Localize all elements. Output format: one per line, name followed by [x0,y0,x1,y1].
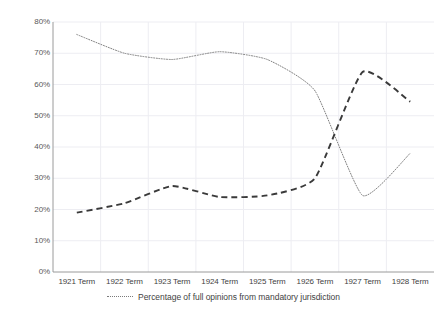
legend-label: Percentage of full opinions from mandato… [138,292,340,302]
y-axis-tick-label: 30% [24,174,50,182]
line-chart: 0%10%20%30%40%50%60%70%80% 1921 Term1922… [0,0,447,310]
x-axis-tick-label: 1928 Term [380,277,440,286]
y-axis-tick-label: 70% [24,49,50,57]
legend-item[interactable]: Percentage of full opinions from mandato… [107,292,340,302]
y-axis-tick-label: 40% [24,143,50,151]
y-axis-tick-labels: 0%10%20%30%40%50%60%70%80% [20,0,50,310]
chart-legend: Percentage of full opinions from mandato… [0,292,447,302]
y-axis-tick-label: 10% [24,237,50,245]
y-axis-tick-label: 80% [24,18,50,26]
y-axis-tick-label: 20% [24,206,50,214]
y-axis-tick-label: 60% [24,81,50,89]
x-axis-tick-labels: 1921 Term1922 Term1923 Term1924 Term1925… [0,272,447,292]
dotted-line-marker [107,296,133,298]
plot-area [0,0,447,310]
y-axis-tick-label: 50% [24,112,50,120]
